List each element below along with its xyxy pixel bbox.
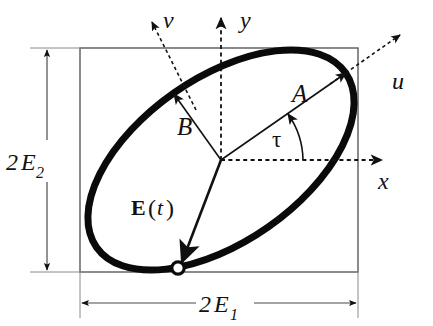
semi-major-axis-vector xyxy=(221,73,346,160)
field-vector-symbol: E xyxy=(131,195,146,220)
height-dimension-symbol: E xyxy=(20,149,36,175)
width-dimension-subscript: 1 xyxy=(230,306,238,323)
open-circle-marker-icon xyxy=(172,262,184,274)
height-dimension-subscript: 2 xyxy=(36,164,44,181)
y-axis-label: y xyxy=(238,7,251,33)
width-dimension-label: 2 E 1 xyxy=(199,291,238,323)
field-vector-argument: t xyxy=(157,195,164,220)
v-axis-label: v xyxy=(163,7,174,33)
width-dimension-symbol: E xyxy=(213,291,229,317)
width-dimension-prefix: 2 xyxy=(199,291,211,317)
u-axis-label: u xyxy=(392,68,404,94)
height-dimension-label: 2 E 2 xyxy=(6,149,44,181)
field-vector-label: E ( t ) xyxy=(131,195,174,221)
figure-canvas: y x u v A B τ E ( t ) 2 E 2 2 E 1 xyxy=(0,0,433,326)
polarization-ellipse-figure: y x u v A B τ E ( t ) 2 E 2 2 E 1 xyxy=(0,0,433,326)
height-dimension-prefix: 2 xyxy=(6,149,18,175)
bounding-box xyxy=(80,48,358,272)
semi-minor-axis-label: B xyxy=(177,113,192,140)
tau-angle-label: τ xyxy=(272,127,281,152)
semi-major-axis-label: A xyxy=(290,80,308,107)
field-vector-close-paren: ) xyxy=(166,195,174,221)
field-vector-open-paren: ( xyxy=(148,195,156,221)
tau-angle-arc xyxy=(288,114,303,160)
field-vector xyxy=(182,160,221,262)
x-axis-label: x xyxy=(377,168,389,194)
